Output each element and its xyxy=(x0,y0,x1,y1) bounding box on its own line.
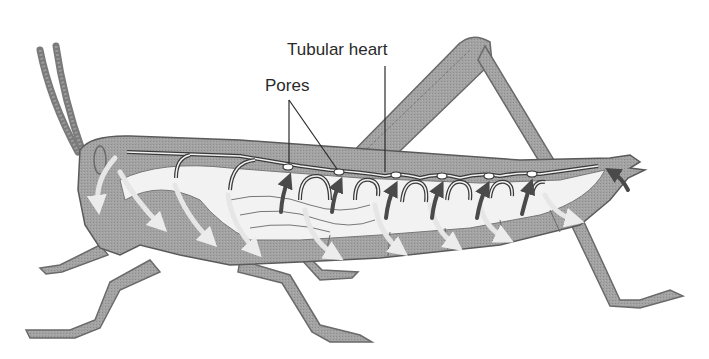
body xyxy=(78,136,645,265)
pore xyxy=(283,164,293,170)
antennae xyxy=(40,46,82,152)
tubular-heart-label: Tubular heart xyxy=(287,40,387,60)
pore xyxy=(484,173,494,179)
pores-label: Pores xyxy=(265,76,309,96)
pore xyxy=(391,172,401,178)
pore xyxy=(437,173,447,179)
grasshopper-diagram: Tubular heart Pores xyxy=(0,0,709,359)
pore xyxy=(334,169,344,175)
pore xyxy=(527,171,537,177)
